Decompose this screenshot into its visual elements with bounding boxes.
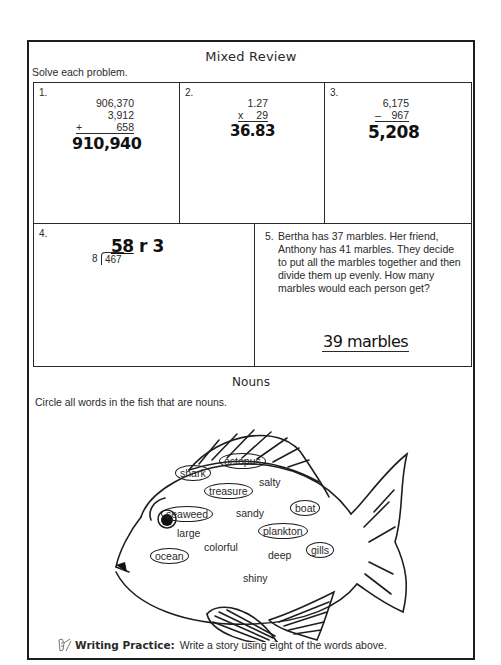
handwritten-answer: 5,208 — [368, 122, 419, 142]
operand: 6,175 — [375, 97, 409, 109]
problem-3: 3. 6,175 – 967 5,208 — [325, 83, 471, 224]
page-title: Mixed Review — [29, 49, 473, 64]
word-problem-text: Bertha has 37 marbles. Her friend, Antho… — [278, 230, 465, 295]
problem-5: 5. Bertha has 37 marbles. Her friend, An… — [255, 224, 471, 366]
noun-word: octopus — [219, 453, 266, 469]
operand: 658 — [116, 121, 134, 133]
noun-word: plankton — [258, 523, 308, 539]
instruction-text: Solve each problem. — [32, 66, 128, 78]
dividend: 467 — [101, 252, 124, 265]
problem-4: 4. 58 r 3 8 467 — [34, 224, 255, 366]
operand: 1.27 — [238, 97, 268, 109]
adjective-word: deep — [268, 549, 291, 561]
operator: x — [238, 109, 243, 121]
operand-row: – 967 — [375, 109, 409, 122]
handwritten-answer: 39 marbles — [322, 332, 409, 352]
noun-word: treasure — [204, 483, 253, 499]
operand-row: x 29 — [238, 109, 268, 122]
nouns-section-title: Nouns — [29, 375, 473, 389]
handwritten-answer: 36.83 — [230, 122, 275, 140]
operand: 29 — [256, 109, 268, 121]
addition-stack: 906,370 3,912 + 658 — [76, 97, 134, 134]
adjective-word: colorful — [204, 541, 238, 553]
subtraction-stack: 6,175 – 967 — [375, 97, 409, 122]
operator: – — [375, 109, 381, 121]
multiplication-stack: 1.27 x 29 — [238, 97, 268, 122]
problem-2: 2. 1.27 x 29 36.83 — [180, 83, 325, 224]
problem-1: 1. 906,370 3,912 + 658 910,940 — [34, 83, 180, 224]
noun-word: shark — [175, 465, 211, 481]
operand: 3,912 — [76, 109, 134, 121]
problem-number: 2. — [185, 87, 193, 98]
operator: + — [76, 121, 82, 133]
noun-word: gills — [306, 542, 334, 558]
problem-number: 4. — [39, 228, 47, 239]
writing-hand-icon — [57, 637, 73, 653]
operand: 967 — [391, 109, 409, 121]
divisor: 8 — [92, 253, 98, 264]
operand: 906,370 — [76, 97, 134, 109]
adjective-word: large — [177, 527, 200, 539]
problem-number: 3. — [330, 87, 338, 98]
problem-grid: 1. 906,370 3,912 + 658 910,940 2. 1.27 x… — [33, 82, 472, 367]
writing-practice: Writing Practice: Write a story using ei… — [57, 637, 387, 653]
writing-practice-label: Writing Practice: — [75, 639, 175, 651]
problem-number: 1. — [39, 87, 47, 98]
noun-word: seaweed — [161, 506, 213, 522]
problem-number: 5. — [265, 230, 274, 243]
writing-practice-text: Write a story using eight of the words a… — [180, 639, 387, 651]
adjective-word: sandy — [236, 507, 264, 519]
fish-illustration — [89, 402, 429, 642]
adjective-word: salty — [259, 476, 281, 488]
handwritten-answer: 910,940 — [72, 134, 141, 153]
adjective-word: shiny — [243, 572, 268, 584]
remainder: r 3 — [139, 236, 164, 256]
operand-row: + 658 — [76, 121, 134, 134]
noun-word: ocean — [150, 548, 189, 564]
word-problem: 5. Bertha has 37 marbles. Her friend, An… — [265, 230, 465, 295]
worksheet: Mixed Review Solve each problem. 1. 906,… — [27, 40, 475, 660]
